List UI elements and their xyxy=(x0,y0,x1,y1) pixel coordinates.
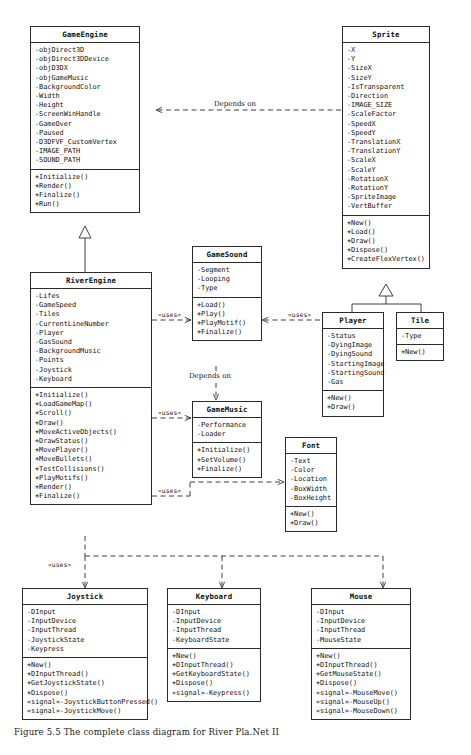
class-member: -Keyboard xyxy=(35,375,148,384)
class-member: -BackgroundMusic xyxy=(35,347,148,356)
class-member: +Load() xyxy=(347,228,426,237)
class-member: -Tiles xyxy=(35,310,148,319)
class-member: -GameSpeed xyxy=(35,301,148,310)
class-member: -BackgroundColor xyxy=(35,83,136,92)
class-member: -Paused xyxy=(35,129,136,138)
class-member: -Width xyxy=(35,92,136,101)
class-member: +Dispose() xyxy=(347,246,426,255)
class-member: +New() xyxy=(327,394,380,403)
class-member: -StartingSound xyxy=(327,369,380,378)
class-member: +GetKeyboardState() xyxy=(172,670,257,679)
class-member: -Color xyxy=(290,466,333,475)
class-attributes-keyboard: -DInput -InputDevice -InputThread -Keybo… xyxy=(168,605,260,649)
class-box-joystick[interactable]: Joystick -DInput -InputDevice -InputThre… xyxy=(22,588,148,720)
class-member: -TranslationX xyxy=(347,138,426,147)
class-member: +Draw() xyxy=(327,403,380,412)
class-member: «signal»-JoystickButtonPressed() xyxy=(27,698,144,707)
class-member: +Draw() xyxy=(35,419,148,428)
class-operations-keyboard: +New() +DInputThread() +GetKeyboardState… xyxy=(168,649,260,701)
class-member: -Performance xyxy=(197,421,258,430)
class-attributes-tile: -Type xyxy=(397,329,443,345)
figure-caption: Figure 5.5 The complete class diagram fo… xyxy=(14,726,454,738)
class-member: -Points xyxy=(35,356,148,365)
class-member: «signal»-MouseDown() xyxy=(316,707,407,716)
class-member: -objGameMusic xyxy=(35,74,136,83)
class-attributes-gamesound: -Segment -Looping -Type xyxy=(193,263,261,298)
class-member: -VertBuffer xyxy=(347,202,426,211)
edge-label-uses-riverengine-gamesound: «uses» xyxy=(157,311,182,319)
class-member: +GetJoystickState() xyxy=(27,679,144,688)
class-name-gamesound: GameSound xyxy=(193,247,261,263)
class-attributes-mouse: -DInput -InputDevice -InputThread -Mouse… xyxy=(312,605,410,649)
class-member: +MoveBullets() xyxy=(35,455,148,464)
class-member: +Run() xyxy=(35,200,136,209)
class-member: -RotationY xyxy=(347,184,426,193)
class-box-gamesound[interactable]: GameSound -Segment -Looping -Type +Load(… xyxy=(192,246,262,341)
class-member: +New() xyxy=(27,661,144,670)
class-member: -DInput xyxy=(172,608,257,617)
class-member: -Direction xyxy=(347,92,426,101)
class-box-keyboard[interactable]: Keyboard -DInput -InputDevice -InputThre… xyxy=(167,588,261,702)
class-member: -objDirect3DDevice xyxy=(35,55,136,64)
class-member: +Dispose() xyxy=(316,679,407,688)
class-member: -Type xyxy=(401,332,440,341)
edge-label-uses-player-gamesound: «uses» xyxy=(287,311,312,319)
edge-label-depends-on-mid: Depends on xyxy=(188,372,232,380)
class-box-font[interactable]: Font -Text -Color -Location -BoxWidth -B… xyxy=(285,437,337,532)
class-member: -GasSound xyxy=(35,338,148,347)
class-member: -CurrentLineNumber xyxy=(35,320,148,329)
class-attributes-joystick: -DInput -InputDevice -InputThread -Joyst… xyxy=(23,605,147,658)
class-member: +Render() xyxy=(35,182,136,191)
class-member: -JoystickState xyxy=(27,636,144,645)
class-member: +TestCollisions() xyxy=(35,465,148,474)
class-box-gamemusic[interactable]: GameMusic -Performance -Loader +Initiali… xyxy=(192,401,262,478)
class-member: -DInput xyxy=(316,608,407,617)
class-member: -ScaleY xyxy=(347,166,426,175)
class-member: -MouseState xyxy=(316,636,407,645)
class-box-riverengine[interactable]: RiverEngine -Lifes -GameSpeed -Tiles -Cu… xyxy=(30,272,152,505)
class-operations-joystick: +New() +DInputThread() +GetJoystickState… xyxy=(23,658,147,719)
class-box-gameengine[interactable]: GameEngine -objDirect3D -objDirect3DDevi… xyxy=(30,26,140,213)
class-attributes-gamemusic: -Performance -Loader xyxy=(193,418,261,443)
class-member: +Finalize() xyxy=(35,191,136,200)
class-member: +Draw() xyxy=(347,237,426,246)
class-member: +DrawStatus() xyxy=(35,437,148,446)
class-member: -ScaleX xyxy=(347,156,426,165)
class-member: +GetMouseState() xyxy=(316,670,407,679)
class-member: +MovePlayer() xyxy=(35,446,148,455)
class-member: -SpeedY xyxy=(347,129,426,138)
class-member: +MoveActiveObjects() xyxy=(35,428,148,437)
class-member: +Initialize() xyxy=(197,446,258,455)
class-member: «signal»-MouseMove() xyxy=(316,689,407,698)
class-member: -InputDevice xyxy=(316,617,407,626)
class-box-player[interactable]: Player -Status -DyingImage -DyingSound -… xyxy=(322,312,384,417)
class-member: -SizeY xyxy=(347,74,426,83)
class-member: +SetVolume() xyxy=(197,456,258,465)
class-member: -RotationX xyxy=(347,175,426,184)
class-member: +Play() xyxy=(197,310,258,319)
class-member: -InputThread xyxy=(27,626,144,635)
edge-label-uses-riverengine-font: «uses» xyxy=(157,487,182,495)
class-member: -SpriteImage xyxy=(347,193,426,202)
class-member: -SpeedX xyxy=(347,120,426,129)
class-box-mouse[interactable]: Mouse -DInput -InputDevice -InputThread … xyxy=(311,588,411,720)
class-operations-riverengine: +Initialize() +LoadGameMap() +Scroll() +… xyxy=(31,388,151,504)
class-member: +Load() xyxy=(197,301,258,310)
class-member: +New() xyxy=(172,652,257,661)
class-member: +Initialize() xyxy=(35,391,148,400)
class-attributes-player: -Status -DyingImage -DyingSound -Startin… xyxy=(323,329,383,391)
class-member: -StartingImage xyxy=(327,360,380,369)
class-box-tile[interactable]: Tile -Type +New() xyxy=(396,312,444,361)
class-name-player: Player xyxy=(323,313,383,329)
class-name-gameengine: GameEngine xyxy=(31,27,139,43)
edge-label-depends-on-top: Depends on xyxy=(213,100,257,108)
class-box-sprite[interactable]: Sprite -X -Y -SizeX -SizeY -IsTransparen… xyxy=(342,26,430,269)
class-member: -objD3DX xyxy=(35,64,136,73)
class-member: -Height xyxy=(35,101,136,110)
edge-label-uses-riverengine-gamemusic: «uses» xyxy=(157,409,182,417)
class-member: -Joystick xyxy=(35,366,148,375)
class-member: «signal»-Keypress() xyxy=(172,689,257,698)
class-name-gamemusic: GameMusic xyxy=(193,402,261,418)
class-member: +New() xyxy=(401,348,440,357)
class-member: +PlayMotif() xyxy=(197,319,258,328)
